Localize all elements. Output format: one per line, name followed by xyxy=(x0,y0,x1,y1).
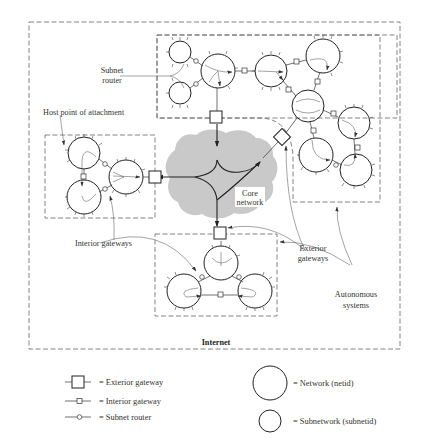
exterior-gateways-label-1: Exterior xyxy=(300,244,327,253)
exterior-gateway-bottom xyxy=(214,227,226,239)
exterior-gateway-diamond xyxy=(274,129,291,146)
host-point-label: Host point of attachment xyxy=(43,108,125,117)
as-top-box-upper xyxy=(157,35,397,118)
as-bottom-networks xyxy=(167,246,272,308)
legend-network: = Network (netid) xyxy=(293,379,354,388)
legend-interior-gateway: = Interior gateway xyxy=(99,397,162,406)
autonomous-systems-label-1: Autonomous xyxy=(335,290,377,299)
legend-subnetwork: = Subnetwork (subnetid) xyxy=(293,417,377,426)
legend-exterior-gateway-icon xyxy=(72,376,84,388)
exterior-gateways-label-2: gateways xyxy=(298,254,328,263)
core-label-2: network xyxy=(237,198,265,207)
autonomous-systems-label-2: systems xyxy=(343,301,369,310)
legend-interior-gateway-icon xyxy=(77,399,82,404)
core-label-1: Core xyxy=(242,189,258,198)
interior-gateways-label: Interior gateways xyxy=(75,239,132,248)
legend-network-icon xyxy=(253,366,287,400)
exterior-gateway-left xyxy=(149,171,161,183)
as-left-networks xyxy=(67,137,143,214)
legend: = Exterior gateway = Interior gateway = … xyxy=(65,366,377,432)
legend-subnet-router-icon xyxy=(77,415,82,420)
legend-exterior-gateway: = Exterior gateway xyxy=(99,378,164,387)
exterior-gateway-top xyxy=(210,111,222,123)
subnet-router-label-1: Subnet xyxy=(101,66,124,75)
internet-architecture-diagram: Subnet router Host point of attachment I… xyxy=(0,0,421,447)
as-left-box xyxy=(45,135,155,218)
legend-subnetwork-icon xyxy=(259,410,281,432)
legend-subnet-router: = Subnet router xyxy=(99,413,151,422)
internet-label: Internet xyxy=(202,338,231,347)
subnet-router-label-2: router xyxy=(102,76,122,85)
